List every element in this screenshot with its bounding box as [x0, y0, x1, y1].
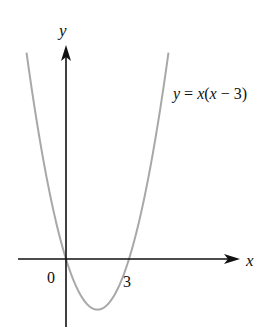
root-3-label: 3 — [123, 273, 131, 290]
y-axis-label: y — [57, 21, 67, 40]
origin-label: 0 — [47, 269, 55, 286]
x-axis-label: x — [245, 251, 254, 270]
plot-canvas: y x 0 3 y = x(x − 3) — [0, 0, 280, 330]
equation-label: y = x(x − 3) — [171, 85, 247, 103]
graph-figure: y x 0 3 y = x(x − 3) — [0, 0, 280, 330]
